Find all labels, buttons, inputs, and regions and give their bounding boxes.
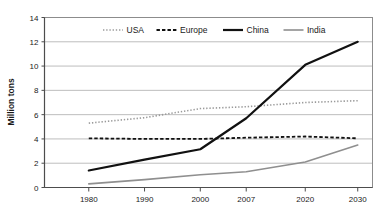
x-tick-label: 2000 — [191, 195, 209, 204]
y-tick-label: 4 — [34, 135, 39, 144]
x-tick-label: 2020 — [296, 195, 314, 204]
legend-label-china: China — [247, 25, 269, 35]
x-tick-label: 1980 — [80, 195, 98, 204]
y-tick-label: 0 — [34, 184, 39, 193]
x-tick-label: 2007 — [237, 195, 255, 204]
legend-label-europe: Europe — [180, 25, 208, 35]
legend-label-usa: USA — [127, 25, 145, 35]
y-tick-label: 10 — [30, 62, 39, 71]
y-tick-label: 6 — [34, 111, 39, 120]
y-axis-title: Million tons — [6, 78, 16, 125]
y-tick-label: 2 — [34, 159, 39, 168]
y-tick-label: 12 — [30, 38, 39, 47]
chart-container: 02468101214 198019902000200720202030 Mil… — [0, 0, 388, 208]
x-tick-label: 2030 — [349, 195, 367, 204]
y-axis-title-label: Million tons — [6, 78, 16, 125]
legend-label-india: India — [307, 25, 326, 35]
y-tick-label: 8 — [34, 86, 39, 95]
x-tick-label: 1990 — [136, 195, 154, 204]
line-chart: 02468101214 198019902000200720202030 Mil… — [0, 0, 388, 208]
y-tick-label: 14 — [30, 14, 39, 23]
